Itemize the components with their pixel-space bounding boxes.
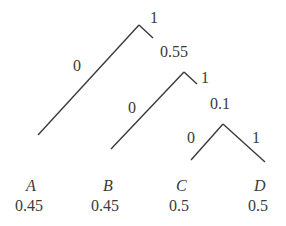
edge-n2-left <box>111 72 184 149</box>
tree-edges <box>0 0 286 226</box>
node-value-n2: 0.55 <box>160 44 188 60</box>
edge-n1-right <box>139 25 153 38</box>
edge-label-n3-right: 1 <box>252 130 260 146</box>
tree-diagram: 0 1 0.55 0 1 0.1 0 1 A 0.45 B 0.45 C 0.5… <box>0 0 286 226</box>
leaf-symbol-b: B <box>103 178 113 194</box>
leaf-value-b: 0.45 <box>91 198 119 214</box>
edge-label-n2-left: 0 <box>128 100 136 116</box>
edge-label-n1-left: 0 <box>73 58 81 74</box>
leaf-symbol-d: D <box>254 178 266 194</box>
node-value-n3: 0.1 <box>210 96 230 112</box>
edge-n3-left <box>191 124 223 160</box>
edge-label-n3-left: 0 <box>187 130 195 146</box>
edge-label-n1-right: 1 <box>150 10 158 26</box>
edge-label-n2-right: 1 <box>201 70 209 86</box>
leaf-value-d: 0.5 <box>248 198 268 214</box>
leaf-symbol-c: C <box>176 178 187 194</box>
leaf-value-c: 0.5 <box>169 198 189 214</box>
edge-n1-left <box>38 25 139 135</box>
leaf-symbol-a: A <box>26 178 36 194</box>
leaf-value-a: 0.45 <box>15 198 43 214</box>
edge-n2-right <box>184 72 197 84</box>
